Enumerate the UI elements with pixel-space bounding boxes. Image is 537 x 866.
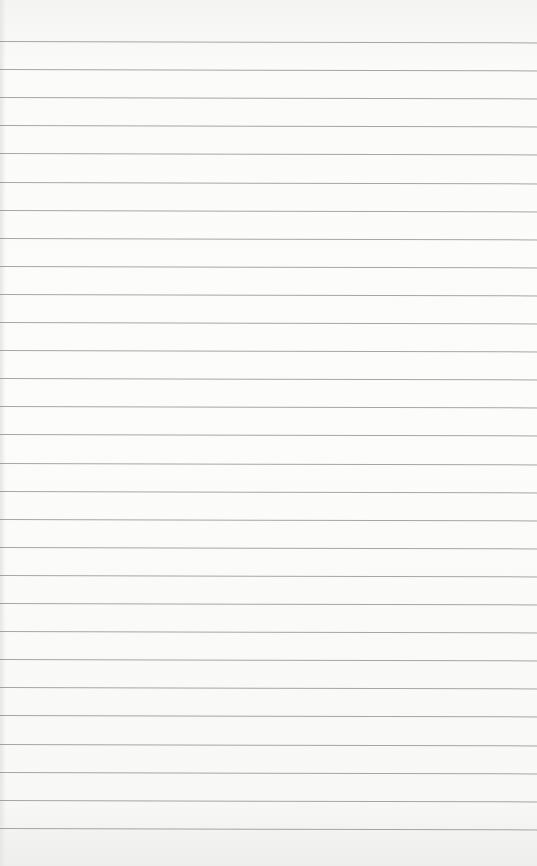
ruled-line xyxy=(0,41,537,43)
ruled-line xyxy=(0,575,537,577)
ruled-line xyxy=(0,153,537,155)
ruled-line xyxy=(0,631,537,633)
lined-paper xyxy=(0,0,537,866)
paper-edge-shadow xyxy=(0,0,6,866)
ruled-line xyxy=(0,772,537,774)
ruled-line xyxy=(0,491,537,493)
ruled-line xyxy=(0,603,537,605)
ruled-line xyxy=(0,350,537,352)
ruled-line xyxy=(0,744,537,746)
ruled-line xyxy=(0,322,537,324)
ruled-line xyxy=(0,294,537,296)
ruled-line xyxy=(0,687,537,689)
ruled-line xyxy=(0,378,537,380)
ruled-line xyxy=(0,547,537,549)
ruled-line xyxy=(0,715,537,717)
ruled-line xyxy=(0,210,537,212)
ruled-line xyxy=(0,238,537,240)
ruled-line xyxy=(0,659,537,661)
ruled-line xyxy=(0,97,537,99)
ruled-line xyxy=(0,182,537,184)
ruled-line xyxy=(0,406,537,408)
ruled-line xyxy=(0,463,537,465)
ruled-line xyxy=(0,519,537,521)
ruled-line xyxy=(0,266,537,268)
ruled-line xyxy=(0,800,537,802)
ruled-line xyxy=(0,828,537,830)
ruled-line xyxy=(0,69,537,71)
ruled-line xyxy=(0,434,537,436)
ruled-line xyxy=(0,125,537,127)
